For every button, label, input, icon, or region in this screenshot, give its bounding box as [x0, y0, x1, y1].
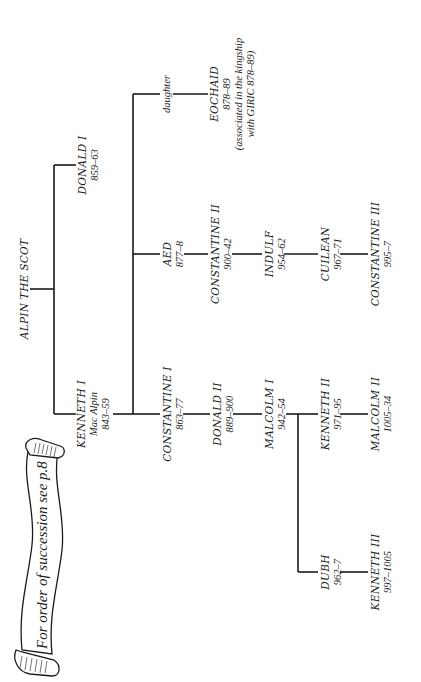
person-reign: 997–1005 [382, 551, 393, 593]
person-donald2: DONALD II 889–900 [211, 382, 235, 447]
person-reign: 900–42 [222, 238, 233, 270]
person-cuilean: CUILEAN 967–71 [319, 226, 343, 281]
person-malcolm2: MALCOLM II 1005–34 [369, 376, 393, 452]
person-reign: 878–89 [221, 78, 232, 110]
person-reign: 843–59 [100, 398, 111, 430]
family-tree-diagram: ALPIN THE SCOT DONALD I 859–63 KENNETH I… [0, 0, 421, 682]
person-constantine3: CONSTANTINE III 995–7 [369, 201, 393, 306]
person-note: with GIRIC 878–89) [245, 50, 257, 137]
person-indulf: INDULF 954–62 [263, 230, 287, 278]
person-name: KENNETH III [369, 533, 381, 611]
person-daughter: daughter [161, 74, 172, 113]
person-name: CONSTANTINE I [161, 366, 173, 462]
person-note: (associated in the kingship [233, 38, 245, 150]
person-kenneth1: KENNETH I Mac Alpin 843–59 [75, 380, 111, 449]
person-name: KENNETH II [319, 377, 331, 451]
person-reign: 877–8 [174, 240, 185, 267]
scroll-top-curl [26, 438, 65, 458]
person-name: DONALD II [211, 382, 223, 447]
person-reign: 942–54 [276, 398, 287, 430]
person-name: KENNETH I [75, 380, 87, 449]
person-eochaid: EOCHAID 878–89 (associated in the kingsh… [208, 38, 257, 150]
person-name: INDULF [263, 230, 275, 278]
scroll-text: For order of succession see p.8 [34, 461, 50, 650]
person-reign: 954–62 [276, 238, 287, 270]
person-reign: 967–71 [332, 238, 343, 270]
person-name: ALPIN THE SCOT [18, 238, 30, 340]
person-reign: 863–77 [174, 398, 185, 430]
person-kenneth3: KENNETH III 997–1005 [369, 533, 393, 611]
person-epithet: Mac Alpin [88, 392, 99, 437]
person-kenneth2: KENNETH II 971–95 [319, 377, 343, 451]
person-alpin: ALPIN THE SCOT [18, 238, 30, 340]
person-constantine1: CONSTANTINE I 863–77 [161, 366, 185, 462]
scroll-banner: For order of succession see p.8 [15, 438, 65, 676]
person-name: daughter [161, 74, 172, 113]
person-name: AED [161, 241, 173, 267]
person-name: MALCOLM II [369, 376, 381, 452]
person-dubh: DUBH 962–7 [319, 554, 343, 591]
person-malcolm1: MALCOLM I 942–54 [263, 379, 287, 450]
person-name: DONALD I [76, 135, 88, 196]
person-reign: 971–95 [332, 398, 343, 430]
person-reign: 859–63 [89, 149, 100, 181]
person-name: CUILEAN [319, 226, 331, 281]
person-name: CONSTANTINE II [209, 203, 221, 304]
person-name: MALCOLM I [263, 379, 275, 450]
person-reign: 1005–34 [382, 395, 393, 433]
person-reign: 889–900 [224, 395, 235, 433]
person-name: CONSTANTINE III [369, 201, 381, 306]
person-constantine2: CONSTANTINE II 900–42 [209, 203, 233, 304]
person-donald1: DONALD I 859–63 [76, 135, 100, 196]
person-aed: AED 877–8 [161, 240, 185, 267]
person-reign: 962–7 [332, 558, 343, 585]
person-name: EOCHAID [208, 66, 220, 123]
person-name: DUBH [319, 554, 331, 591]
person-reign: 995–7 [382, 240, 393, 267]
